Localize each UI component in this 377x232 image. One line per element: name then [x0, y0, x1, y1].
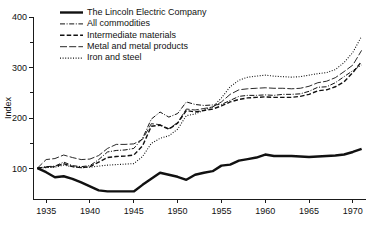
x-tick-label: 1960 — [255, 206, 275, 216]
chart-legend: The Lincoln Electric CompanyAll commodit… — [60, 7, 207, 63]
x-tick-label: 1955 — [211, 206, 231, 216]
x-tick-label: 1940 — [80, 206, 100, 216]
legend-label: Metal and metal products — [87, 41, 189, 51]
x-tick-label: 1945 — [124, 206, 144, 216]
x-axis-ticks: 19351940194519501955196019651970 — [36, 199, 363, 216]
legend-label: Intermediate materials — [87, 30, 177, 40]
series-line — [37, 61, 361, 168]
y-tick-label: 200 — [12, 113, 27, 123]
chart-container: 100200300400 193519401945195019551960196… — [0, 0, 377, 232]
legend-label: Iron and steel — [87, 52, 142, 62]
y-tick-label: 100 — [12, 164, 27, 174]
x-tick-label: 1935 — [36, 206, 56, 216]
y-tick-label: 300 — [12, 63, 27, 73]
y-axis-title: Index — [3, 96, 13, 119]
x-tick-label: 1950 — [168, 206, 188, 216]
series-line — [37, 149, 361, 191]
y-axis-ticks: 100200300400 — [12, 12, 33, 174]
legend-label: The Lincoln Electric Company — [87, 7, 207, 17]
legend-label: All commodities — [87, 18, 151, 28]
y-tick-label: 400 — [12, 12, 27, 22]
series-line — [37, 50, 361, 168]
x-tick-label: 1965 — [299, 206, 319, 216]
series-line — [37, 65, 361, 168]
x-tick-label: 1970 — [343, 206, 363, 216]
line-chart: 100200300400 193519401945195019551960196… — [0, 0, 377, 232]
